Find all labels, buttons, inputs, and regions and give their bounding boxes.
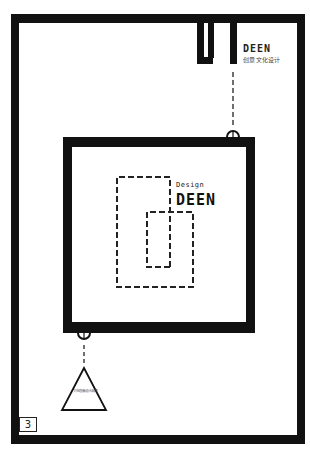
brand-logo-subtitle: 创意文化设计 (243, 56, 281, 63)
center-tagline: Design (176, 181, 204, 189)
triangle-label: 文化创意设计品牌 (70, 389, 100, 394)
poster-page: DEEN 创意文化设计 Design DEEN 文化创意设计品牌 3 (0, 0, 310, 453)
brand-logo-title: DEEN (243, 44, 271, 54)
center-title: DEEN (176, 192, 216, 208)
decorative-lines (0, 0, 310, 453)
logo-mark-icon (197, 20, 237, 64)
page-number: 3 (19, 417, 37, 432)
